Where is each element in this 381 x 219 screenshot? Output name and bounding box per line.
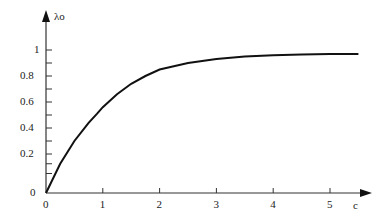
x-tick-label: 2: [157, 198, 163, 210]
data-line: [46, 54, 358, 193]
x-tick-label: 0: [43, 198, 49, 210]
y-axis-arrow-icon: [42, 10, 50, 22]
plot-area: [0, 0, 381, 219]
y-tick-label: 0.6: [20, 95, 34, 107]
y-tick-label: 0: [30, 186, 36, 198]
x-axis-arrow-icon: [360, 189, 372, 197]
x-axis-label: c: [353, 199, 358, 211]
chart: 01234500.20.40.60.81cλo: [0, 0, 381, 219]
x-tick-label: 3: [213, 198, 219, 210]
y-tick-label: 1: [34, 43, 40, 55]
x-tick-label: 4: [270, 198, 276, 210]
x-tick-label: 5: [327, 198, 333, 210]
x-tick-label: 1: [100, 198, 106, 210]
y-tick-label: 0.4: [20, 121, 34, 133]
y-axis-label: λo: [54, 10, 65, 22]
y-tick-label: 0.8: [20, 69, 34, 81]
y-tick-label: 0.2: [20, 147, 34, 159]
